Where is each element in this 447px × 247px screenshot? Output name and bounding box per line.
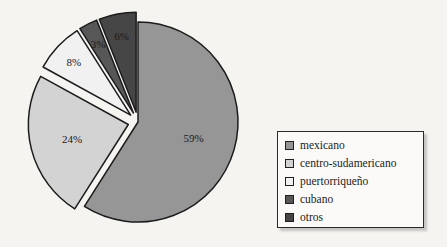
legend-item-mexicano[interactable]: mexicano [285,137,423,154]
pie-chart-figure: 59%24%8%3%6% mexicano centro-sudamerican… [0,0,447,247]
legend-label-cubano: cubano [300,194,333,206]
legend-swatch-otros [285,213,294,222]
pie-slice-group [28,12,238,222]
legend-box: mexicano centro-sudamericano puertorriqu… [277,131,424,228]
legend-label-puertorriqueno: puertorriqueño [300,176,368,188]
pie-value-label-otros: 6% [114,30,129,42]
legend-swatch-mexicano [285,141,294,150]
legend-swatch-cubano [285,195,294,204]
legend-swatch-puertorriqueno [285,177,294,186]
legend-label-centro-sudamericano: centro-sudamericano [300,158,396,170]
legend-item-cubano[interactable]: cubano [285,191,423,208]
pie-value-label-centro-sudamericano: 24% [62,133,82,145]
legend-label-mexicano: mexicano [300,140,345,152]
legend-label-otros: otros [300,212,323,224]
legend-item-otros[interactable]: otros [285,209,423,226]
legend-item-centro-sudamericano[interactable]: centro-sudamericano [285,155,423,172]
legend-item-puertorriqueno[interactable]: puertorriqueño [285,173,423,190]
pie-value-label-cubano: 3% [91,38,106,50]
legend-swatch-centro-sudamericano [285,159,294,168]
pie-value-label-mexicano: 59% [184,132,204,144]
pie-value-label-puertorrique-o: 8% [67,56,82,68]
